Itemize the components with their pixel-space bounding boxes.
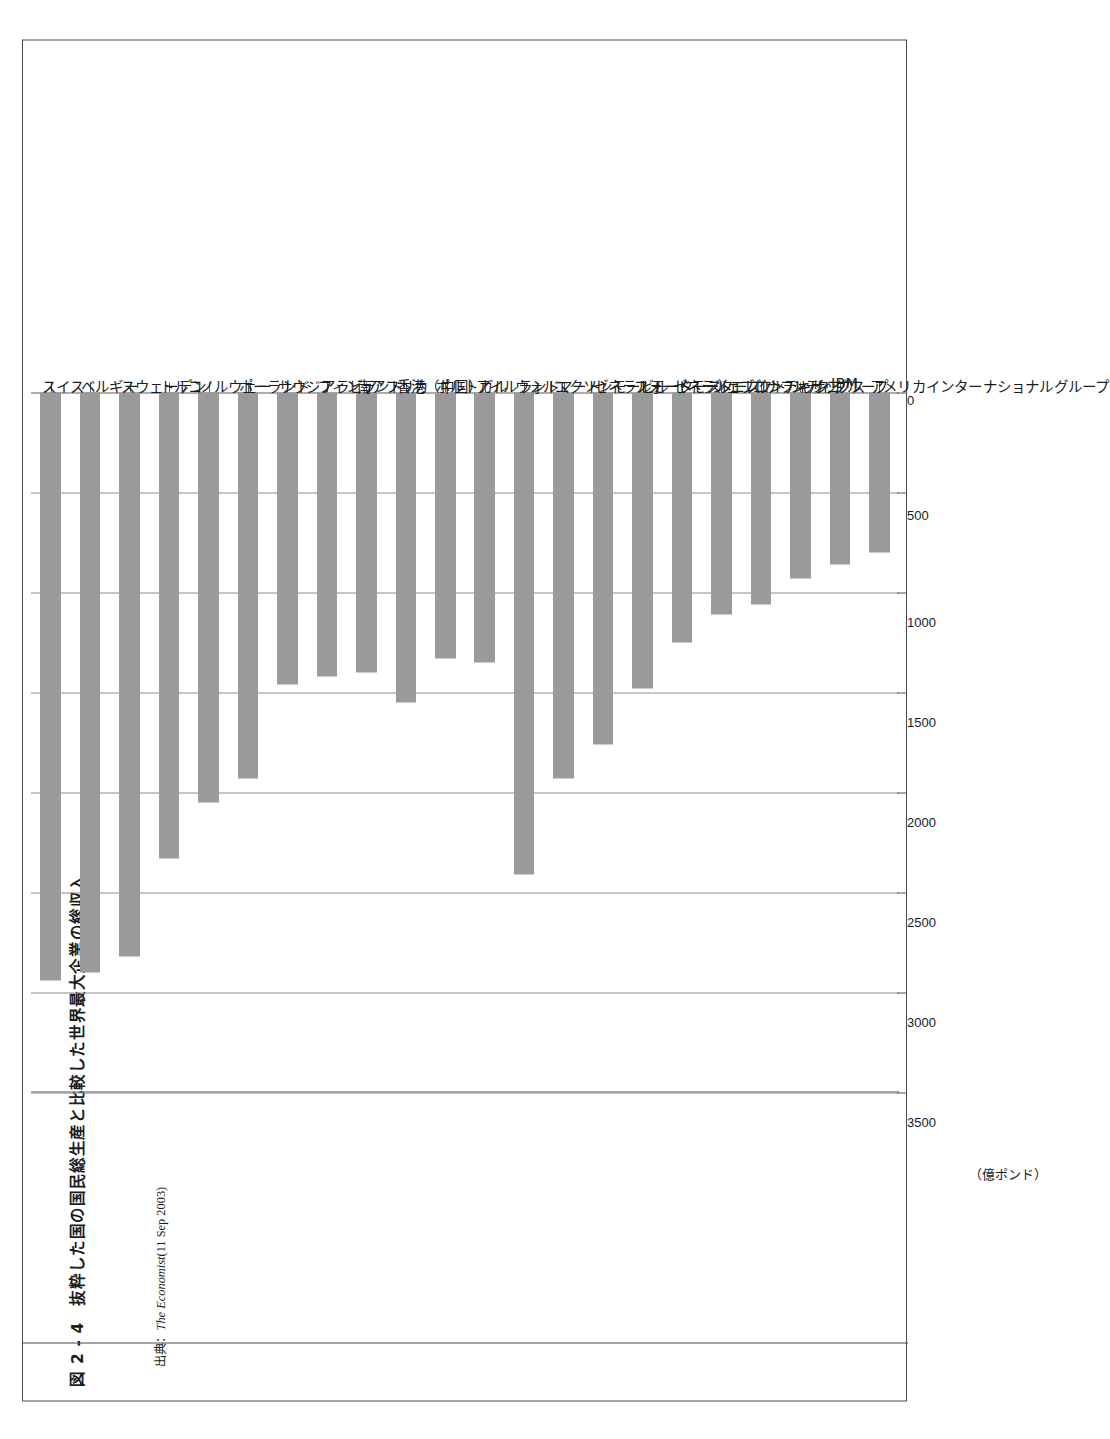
bar [474, 392, 495, 662]
bar-row [435, 392, 456, 1092]
axis-tick-label: 1000 [907, 614, 936, 629]
bar [514, 392, 535, 874]
axis-tick [897, 592, 906, 593]
bar-row [632, 392, 653, 1092]
bar [435, 392, 456, 658]
category-label: スイス [42, 374, 85, 395]
category-label: トルコ [160, 374, 203, 395]
bar [593, 392, 614, 744]
bar [80, 392, 101, 972]
bar-row [711, 392, 732, 1092]
bar-row [356, 392, 377, 1092]
bar [790, 392, 811, 578]
bar-row [277, 392, 298, 1092]
bar-row [80, 392, 101, 1092]
bar-row [830, 392, 851, 1092]
bar [830, 392, 851, 564]
bar [396, 392, 417, 702]
bar [159, 392, 180, 858]
axis-tick-label: 2500 [907, 914, 936, 929]
bar-chart-plot: 0500100015002000250030003500（億ポンド） スイスベル… [31, 392, 899, 1092]
category-label: アメリカインターナショナルグループ [870, 374, 1109, 395]
bar-row [514, 392, 535, 1092]
bar-row [317, 392, 338, 1092]
bar [277, 392, 298, 684]
bar-row [159, 392, 180, 1092]
axis-unit-label: （億ポンド） [969, 1163, 1047, 1182]
bar-row [396, 392, 417, 1092]
axis-tick [897, 992, 906, 993]
bar-row [553, 392, 574, 1092]
bar [317, 392, 338, 676]
bar-row [593, 392, 614, 1092]
bar [869, 392, 890, 552]
bar-row [40, 392, 61, 1092]
bar-row [869, 392, 890, 1092]
axis-tick [897, 1092, 906, 1093]
category-label: IBM [831, 374, 858, 390]
bar-row [790, 392, 811, 1092]
bar-row [198, 392, 219, 1092]
bar-row [238, 392, 259, 1092]
axis-tick-label: 2000 [907, 814, 936, 829]
bar [553, 392, 574, 778]
bar [356, 392, 377, 672]
bar [198, 392, 219, 802]
bar [751, 392, 772, 604]
axis-tick [897, 692, 906, 693]
bar-row [119, 392, 140, 1092]
axis-tick-label: 3500 [907, 1114, 936, 1129]
axis-tick [897, 892, 906, 893]
axis-tick-label: 3000 [907, 1014, 936, 1029]
bar-row [474, 392, 495, 1092]
bar [632, 392, 653, 688]
bar [40, 392, 61, 980]
bar [119, 392, 140, 956]
bar [672, 392, 693, 642]
axis-tick-label: 1500 [907, 714, 936, 729]
bar-row [672, 392, 693, 1092]
chart-frame: 0500100015002000250030003500（億ポンド） スイスベル… [23, 38, 908, 1343]
figure-caption-area: 図 2 - 4 抜粋した国の国民総生産と比較した世界最大企業の総収入 出典：Th… [23, 1343, 908, 1400]
axis-tick [897, 792, 906, 793]
bar [238, 392, 259, 778]
page-border: 図 2 - 4 抜粋した国の国民総生産と比較した世界最大企業の総収入 出典：Th… [22, 39, 907, 1401]
bar [711, 392, 732, 614]
axis-tick [897, 492, 906, 493]
bar-row [751, 392, 772, 1092]
axis-tick-label: 500 [907, 507, 929, 522]
